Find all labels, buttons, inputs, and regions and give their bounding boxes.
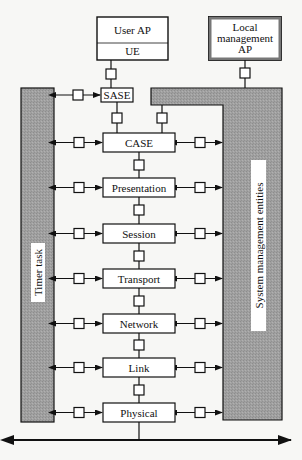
user-ap-label: User AP (114, 24, 151, 36)
layer-network: Network (103, 314, 175, 333)
timer-task-bar: Timer task (21, 88, 54, 422)
layer-label: Transport (118, 273, 160, 285)
layer-link: Link (103, 358, 175, 377)
ue-label: UE (125, 45, 140, 57)
local-mgmt-line-3: AP (238, 43, 252, 55)
osi-diagram: User AP UE Local management AP Timer tas… (0, 0, 302, 460)
layer-session: Session (103, 224, 175, 243)
layer-presentation: Presentation (103, 178, 175, 197)
layer-label: Network (120, 318, 159, 330)
local-management-ap-box: Local management AP (209, 17, 282, 61)
sase-box: SASE (101, 88, 133, 102)
layer-transport: Transport (103, 269, 175, 288)
timer-task-label: Timer task (32, 249, 44, 296)
system-management-label: System management entities (253, 183, 265, 309)
layer-label: Session (122, 228, 156, 240)
sase-label: SASE (104, 89, 131, 101)
layer-physical: Physical (103, 403, 175, 422)
layer-label: CASE (125, 137, 153, 149)
user-ap-box: User AP UE (97, 17, 168, 60)
layer-label: Physical (120, 407, 157, 419)
layer-label: Link (129, 362, 150, 374)
layer-label: Presentation (112, 182, 167, 194)
layer-case: CASE (103, 133, 175, 152)
